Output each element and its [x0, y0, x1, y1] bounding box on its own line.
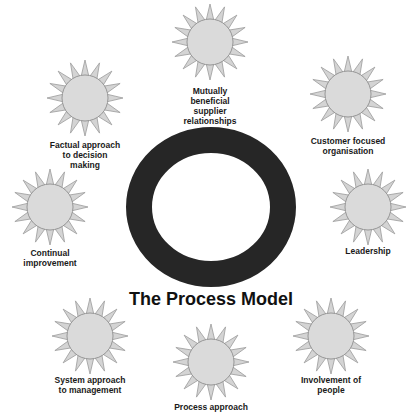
process-ring — [139, 140, 283, 274]
sun-disc — [187, 19, 233, 65]
sun-icon — [310, 56, 386, 132]
principle-label-factual-approach: Factual approachto decisionmaking — [50, 140, 120, 170]
sun-icon — [330, 169, 406, 245]
process-model-diagram — [0, 0, 417, 419]
label-line: organisation — [311, 146, 386, 156]
sun-icon — [172, 4, 248, 80]
label-line: Continual — [23, 248, 76, 258]
sun-icon — [47, 60, 123, 136]
sun-icon — [173, 324, 249, 400]
sun-disc — [62, 75, 108, 121]
sun-icon — [293, 298, 369, 374]
sun-disc — [67, 313, 113, 359]
principle-label-mutually-beneficial: Mutuallybeneficialsupplierrelationships — [184, 86, 237, 126]
sun-disc — [308, 313, 354, 359]
principle-suns — [12, 4, 406, 400]
principle-label-leadership: Leadership — [345, 246, 390, 256]
label-line: improvement — [23, 258, 76, 268]
sun-icon — [52, 298, 128, 374]
label-line: Customer focused — [311, 136, 386, 146]
sun-disc — [27, 184, 73, 230]
label-line: making — [50, 160, 120, 170]
sun-disc — [188, 339, 234, 385]
sun-disc — [325, 71, 371, 117]
label-line: supplier — [184, 106, 237, 116]
label-line: Leadership — [345, 246, 390, 256]
principle-label-involvement-of-people: Involvement ofpeople — [301, 375, 361, 395]
label-line: beneficial — [184, 96, 237, 106]
principle-label-customer-focused: Customer focusedorganisation — [311, 136, 386, 156]
sun-icon — [12, 169, 88, 245]
diagram-title: The Process Model — [129, 289, 293, 310]
label-line: Process approach — [174, 402, 248, 412]
label-line: System approach — [55, 375, 126, 385]
principle-label-process-approach: Process approach — [174, 402, 248, 412]
label-line: people — [301, 385, 361, 395]
label-line: Mutually — [184, 86, 237, 96]
label-line: to decision — [50, 150, 120, 160]
principle-label-system-approach: System approachto management — [55, 375, 126, 395]
label-line: to management — [55, 385, 126, 395]
label-line: relationships — [184, 116, 237, 126]
principle-label-continual-improvement: Continualimprovement — [23, 248, 76, 268]
sun-disc — [345, 184, 391, 230]
label-line: Factual approach — [50, 140, 120, 150]
label-line: Involvement of — [301, 375, 361, 385]
